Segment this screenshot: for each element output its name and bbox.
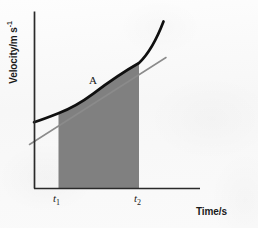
tick-t1-subscript: 1 — [56, 198, 60, 207]
area-label-A: A — [89, 74, 97, 86]
velocity-time-figure: Velocity/m s-1 Time/s t1 t2 A — [0, 0, 258, 228]
y-axis-title-exponent: -1 — [6, 21, 13, 27]
x-tick-label-t1: t1 — [53, 192, 60, 204]
y-axis-title-text: Velocity/m s — [8, 27, 19, 84]
x-axis-title: Time/s — [196, 206, 227, 217]
x-tick-label-t2: t2 — [134, 192, 141, 204]
y-axis-title: Velocity/m s-1 — [8, 7, 19, 99]
tick-t2-subscript: 2 — [137, 198, 141, 207]
plot-canvas — [0, 0, 258, 228]
